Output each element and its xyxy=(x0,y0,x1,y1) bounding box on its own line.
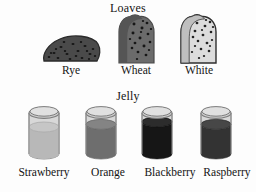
jelly-item-blackberry xyxy=(129,104,185,162)
bread-slice-rye-icon xyxy=(40,34,102,64)
loaf-item-wheat xyxy=(108,14,166,64)
bread-slice-wheat-icon xyxy=(114,14,160,64)
jelly-label-row: Strawberry Orange Blackberry Raspberry xyxy=(0,166,256,184)
jelly-item-orange xyxy=(73,104,129,162)
jelly-label-orange: Orange xyxy=(80,166,136,178)
jelly-jar-icon xyxy=(82,104,120,160)
loaf-label-white: White xyxy=(167,64,231,76)
jelly-label-strawberry: Strawberry xyxy=(6,166,82,178)
loaf-item-rye xyxy=(38,14,104,64)
loaf-label-wheat: Wheat xyxy=(106,64,166,76)
loaf-label-rye: Rye xyxy=(38,64,104,76)
jelly-section-title: Jelly xyxy=(0,89,256,104)
jelly-item-strawberry xyxy=(16,104,72,162)
bread-and-jelly-diagram: Loaves xyxy=(0,0,256,192)
jelly-jar-icon xyxy=(25,104,63,160)
bread-slice-white-icon xyxy=(176,14,222,64)
jelly-item-raspberry xyxy=(188,104,244,162)
loaves-label-row: Rye Wheat White xyxy=(0,64,256,82)
jelly-row xyxy=(0,104,256,164)
loaf-item-white xyxy=(168,14,230,64)
jelly-jar-icon xyxy=(197,104,235,160)
jelly-jar-icon xyxy=(138,104,176,160)
jelly-label-raspberry: Raspberry xyxy=(196,166,256,178)
